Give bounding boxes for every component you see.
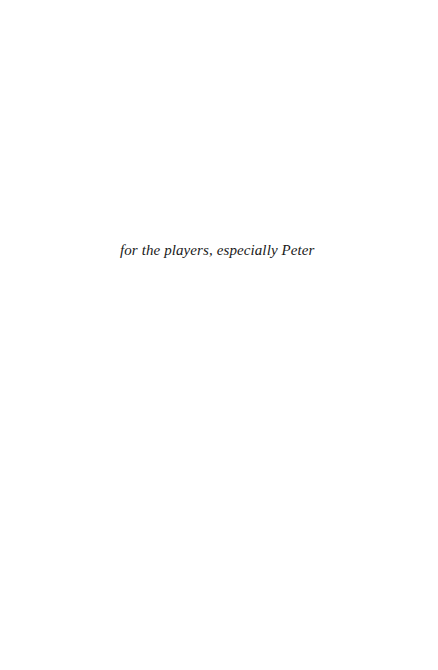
book-page: for the players, especially Peter bbox=[0, 0, 438, 670]
dedication-text: for the players, especially Peter bbox=[120, 242, 315, 259]
